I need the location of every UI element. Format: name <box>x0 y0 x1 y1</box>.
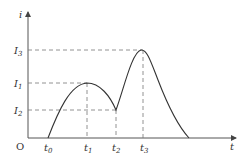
i1-label: I1 <box>13 78 22 91</box>
t3-label: t3 <box>140 142 149 155</box>
y-axis-label: i <box>19 9 22 20</box>
t0-label: t0 <box>44 142 53 155</box>
current-time-diagram: i t O I3 I1 I2 t0 t1 t2 t3 <box>0 0 249 161</box>
t1-label: t1 <box>84 142 93 155</box>
origin-label: O <box>16 141 24 152</box>
i2-label: I2 <box>13 105 23 118</box>
i3-label: I3 <box>13 45 23 58</box>
t2-label: t2 <box>112 142 121 155</box>
x-axis-label: t <box>230 141 235 152</box>
current-curve <box>48 50 189 138</box>
